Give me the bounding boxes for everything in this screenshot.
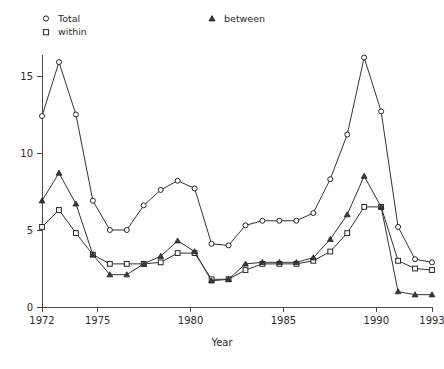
data-point-square <box>328 249 333 254</box>
chart-figure: Total within between 0510151972197519801… <box>0 0 444 369</box>
data-point-square <box>107 261 112 266</box>
data-point-circle <box>345 132 350 137</box>
data-point-circle <box>158 187 163 192</box>
data-point-triangle <box>395 289 401 294</box>
series-total <box>40 55 435 265</box>
data-point-circle <box>430 260 435 265</box>
data-point-square <box>430 268 435 273</box>
chart-series-layer <box>39 55 435 297</box>
data-point-square <box>158 260 163 265</box>
x-tick-label: 1975 <box>85 315 110 326</box>
legend-label-within: within <box>58 26 87 37</box>
data-point-circle <box>379 109 384 114</box>
data-point-circle <box>90 198 95 203</box>
line-chart: Total within between 0510151972197519801… <box>0 0 444 369</box>
square-icon <box>43 30 48 35</box>
data-point-triangle <box>175 238 181 243</box>
legend-entry-between: between <box>209 13 265 24</box>
data-point-circle <box>396 224 401 229</box>
data-point-circle <box>56 60 61 65</box>
triangle-icon <box>209 16 215 21</box>
circle-icon <box>43 16 48 21</box>
data-point-square <box>345 231 350 236</box>
x-axis-title: Year <box>210 337 233 348</box>
data-point-square <box>57 208 62 213</box>
data-point-circle <box>328 177 333 182</box>
y-tick-label: 5 <box>27 225 33 236</box>
x-tick-label: 1980 <box>178 315 203 326</box>
data-point-square <box>413 266 418 271</box>
data-point-square <box>40 225 45 230</box>
data-point-circle <box>192 186 197 191</box>
data-point-square <box>243 268 248 273</box>
data-point-circle <box>124 228 129 233</box>
data-point-circle <box>107 228 112 233</box>
data-point-circle <box>294 218 299 223</box>
data-point-triangle <box>361 173 367 178</box>
legend-label-total: Total <box>57 13 80 24</box>
data-point-square <box>396 258 401 263</box>
data-point-square <box>124 261 129 266</box>
data-point-circle <box>209 241 214 246</box>
legend-entry-total: Total <box>43 13 80 24</box>
legend-entry-within: within <box>43 26 86 37</box>
data-point-circle <box>73 112 78 117</box>
x-tick-label: 1972 <box>29 315 54 326</box>
data-point-square <box>74 231 79 236</box>
data-point-circle <box>243 223 248 228</box>
data-point-circle <box>413 257 418 262</box>
data-point-triangle <box>39 198 45 203</box>
data-point-circle <box>362 55 367 60</box>
x-tick-label: 1990 <box>364 315 389 326</box>
data-point-circle <box>40 114 45 119</box>
x-tick-label: 1993 <box>419 315 444 326</box>
data-point-triangle <box>56 170 62 175</box>
data-point-circle <box>141 203 146 208</box>
data-point-circle <box>311 211 316 216</box>
data-point-circle <box>175 178 180 183</box>
chart-legend: Total within between <box>43 13 265 37</box>
data-point-triangle <box>344 212 350 217</box>
x-tick-label: 1985 <box>271 315 296 326</box>
y-tick-label: 15 <box>20 71 33 82</box>
y-tick-label: 0 <box>27 302 33 313</box>
data-point-triangle <box>73 201 79 206</box>
data-point-circle <box>226 243 231 248</box>
series-between <box>39 170 435 297</box>
y-tick-label: 10 <box>20 148 33 159</box>
legend-label-between: between <box>224 13 265 24</box>
series-within <box>40 205 435 282</box>
data-point-circle <box>277 218 282 223</box>
data-point-square <box>362 205 367 210</box>
data-point-circle <box>260 218 265 223</box>
data-point-square <box>175 251 180 256</box>
